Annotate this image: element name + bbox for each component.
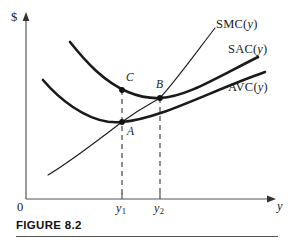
curve-label-smc: SMC(y) [216, 18, 258, 31]
y-axis-arrowhead [23, 12, 30, 21]
tick-label-y2: y2 [154, 202, 164, 214]
curve-label-sac: SAC(y) [228, 43, 267, 56]
tick-label-y1: y1 [116, 202, 126, 214]
point-label-b: B [156, 79, 163, 91]
origin-label: 0 [17, 201, 23, 214]
curve-label-avc: AVC(y) [228, 81, 268, 94]
point-c-marker [119, 87, 125, 93]
x-axis-label: y [277, 200, 283, 213]
cost-curves-plot [0, 0, 294, 243]
point-b-marker [157, 95, 163, 101]
figure-caption: FIGURE 8.2 [16, 219, 82, 231]
caption-divider [16, 236, 278, 237]
point-label-c: C [126, 72, 134, 84]
y-axis-label: $ [11, 11, 17, 24]
figure-container: SMC(y) SAC(y) AVC(y) C B A $ y 0 y1 y2 F… [0, 0, 294, 243]
x-axis-arrowhead [267, 196, 276, 203]
point-label-a: A [127, 126, 134, 138]
point-a-marker [119, 119, 125, 125]
